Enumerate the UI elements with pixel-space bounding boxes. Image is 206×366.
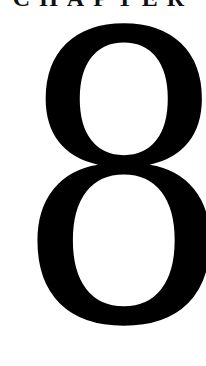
chapter-number: 8 (14, 12, 191, 352)
